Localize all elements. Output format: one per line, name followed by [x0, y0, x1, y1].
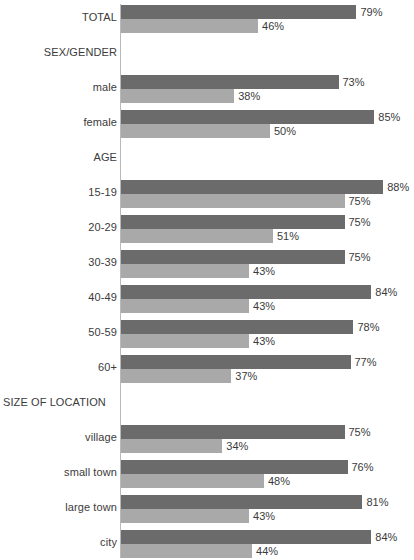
- bar-rect: [121, 495, 362, 509]
- bar-rect: [121, 110, 374, 124]
- bar-rect: [121, 544, 252, 558]
- chart-row: female85%50%: [0, 105, 414, 140]
- bar-rect: [121, 509, 249, 523]
- category-label: 60+: [0, 361, 117, 374]
- bar-value-label: 34%: [222, 439, 248, 453]
- bar-rect: [121, 439, 222, 453]
- chart-section-header: SIZE OF LOCATION: [0, 385, 414, 420]
- chart-row: male73%38%: [0, 70, 414, 105]
- bar-rect: [121, 334, 249, 348]
- bar-rect: [121, 180, 383, 194]
- bar-rect: [121, 5, 356, 19]
- bar-value-label: 79%: [356, 5, 382, 19]
- bar-rect: [121, 530, 371, 544]
- chart-row: 15-1988%75%: [0, 175, 414, 210]
- bar-group: 73%38%: [121, 70, 414, 105]
- bar-value-label: 77%: [351, 355, 377, 369]
- bar-light: 48%: [121, 474, 290, 488]
- horizontal-bar-chart: TOTAL79%46%SEX/GENDERmale73%38%female85%…: [0, 0, 414, 560]
- chart-row: village75%34%: [0, 420, 414, 455]
- category-label: small town: [0, 466, 117, 479]
- bar-group: 76%48%: [121, 455, 414, 490]
- bar-dark: 78%: [121, 320, 379, 334]
- bar-rect: [121, 89, 234, 103]
- bar-group: 75%34%: [121, 420, 414, 455]
- bar-light: 43%: [121, 509, 275, 523]
- category-label: city: [0, 536, 117, 549]
- bar-dark: 76%: [121, 460, 374, 474]
- bar-light: 51%: [121, 229, 299, 243]
- chart-row: 20-2975%51%: [0, 210, 414, 245]
- bar-value-label: 43%: [249, 334, 275, 348]
- bar-value-label: 84%: [371, 285, 397, 299]
- category-label: large town: [0, 501, 117, 514]
- bar-rect: [121, 285, 371, 299]
- chart-row: 50-5978%43%: [0, 315, 414, 350]
- chart-row: 40-4984%43%: [0, 280, 414, 315]
- bar-group: 84%43%: [121, 280, 414, 315]
- bar-light: 44%: [121, 544, 278, 558]
- bar-dark: 85%: [121, 110, 400, 124]
- bar-group: 78%43%: [121, 315, 414, 350]
- bar-dark: 81%: [121, 495, 388, 509]
- bar-light: 46%: [121, 19, 284, 33]
- bar-rect: [121, 460, 348, 474]
- bar-value-label: 43%: [249, 264, 275, 278]
- category-label: 15-19: [0, 186, 117, 199]
- bar-value-label: 78%: [353, 320, 379, 334]
- bar-dark: 75%: [121, 425, 371, 439]
- category-label: 50-59: [0, 326, 117, 339]
- bar-value-label: 84%: [371, 530, 397, 544]
- chart-row: 30-3975%43%: [0, 245, 414, 280]
- bar-rect: [121, 215, 345, 229]
- bar-rect: [121, 355, 351, 369]
- bar-group: 75%51%: [121, 210, 414, 245]
- bar-value-label: 75%: [345, 250, 371, 264]
- section-label: SEX/GENDER: [0, 46, 117, 59]
- category-label: 20-29: [0, 221, 117, 234]
- bar-light: 50%: [121, 124, 296, 138]
- bar-rect: [121, 320, 353, 334]
- bar-value-label: 75%: [345, 215, 371, 229]
- category-label: male: [0, 81, 117, 94]
- bar-rect: [121, 250, 345, 264]
- bar-value-label: 76%: [348, 460, 374, 474]
- chart-section-header: SEX/GENDER: [0, 35, 414, 70]
- bar-rect: [121, 425, 345, 439]
- chart-section-header: AGE: [0, 140, 414, 175]
- bar-rect: [121, 19, 258, 33]
- bar-value-label: 51%: [273, 229, 299, 243]
- bar-group: 85%50%: [121, 105, 414, 140]
- bar-rect: [121, 124, 270, 138]
- bar-dark: 84%: [121, 530, 397, 544]
- bar-dark: 84%: [121, 285, 397, 299]
- bar-light: 43%: [121, 264, 275, 278]
- bar-rect: [121, 299, 249, 313]
- bar-rect: [121, 369, 231, 383]
- category-label: 30-39: [0, 256, 117, 269]
- bar-group: 88%75%: [121, 175, 414, 210]
- bar-value-label: 46%: [258, 19, 284, 33]
- bar-value-label: 43%: [249, 299, 275, 313]
- bar-rect: [121, 229, 273, 243]
- bar-light: 37%: [121, 369, 257, 383]
- bar-rect: [121, 474, 264, 488]
- bar-value-label: 37%: [231, 369, 257, 383]
- bar-rect: [121, 194, 345, 208]
- chart-row: TOTAL79%46%: [0, 0, 414, 35]
- bar-dark: 77%: [121, 355, 377, 369]
- bar-rect: [121, 264, 249, 278]
- bar-light: 34%: [121, 439, 248, 453]
- bar-value-label: 75%: [345, 425, 371, 439]
- bar-value-label: 44%: [252, 544, 278, 558]
- chart-rows: TOTAL79%46%SEX/GENDERmale73%38%female85%…: [0, 0, 414, 560]
- bar-dark: 73%: [121, 75, 365, 89]
- bar-dark: 88%: [121, 180, 409, 194]
- bar-dark: 79%: [121, 5, 382, 19]
- bar-value-label: 73%: [339, 75, 365, 89]
- section-label: AGE: [0, 151, 117, 164]
- bar-value-label: 88%: [383, 180, 409, 194]
- bar-value-label: 38%: [234, 89, 260, 103]
- bar-value-label: 75%: [345, 194, 371, 208]
- chart-row: small town76%48%: [0, 455, 414, 490]
